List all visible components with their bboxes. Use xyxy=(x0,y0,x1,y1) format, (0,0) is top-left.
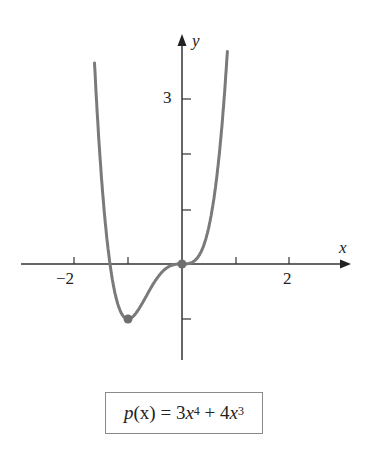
x-axis-arrow-icon xyxy=(340,260,351,269)
x-axis-label: x xyxy=(339,238,347,258)
formula-box: p(x) = 3x4 + 4x3 xyxy=(105,392,263,434)
x-tick-label-2: 2 xyxy=(283,269,292,289)
y-tick-label-3: 3 xyxy=(163,88,172,108)
local-min-point xyxy=(124,315,133,324)
formula-exp1: 4 xyxy=(194,404,200,419)
x-tick-label-neg2: −2 xyxy=(56,269,74,289)
y-axis-label: y xyxy=(192,31,200,51)
formula-fn: p xyxy=(124,402,134,424)
function-curve xyxy=(95,52,228,320)
formula-mid: + 4 xyxy=(200,402,230,424)
chart-canvas xyxy=(0,0,368,459)
formula-exp2: 3 xyxy=(238,404,244,419)
formula-var2: x xyxy=(230,402,238,424)
origin-point xyxy=(178,260,187,269)
formula-lhs: (x) = 3 xyxy=(134,402,186,424)
y-ticks xyxy=(182,99,191,319)
formula-var1: x xyxy=(185,402,193,424)
y-axis-arrow-icon xyxy=(178,34,187,46)
